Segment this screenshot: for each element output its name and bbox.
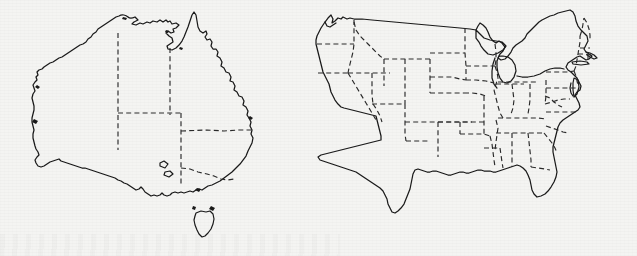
- usa-border-oh-pa-wv: [545, 80, 546, 104]
- usa-border-in-oh: [528, 84, 530, 114]
- usa-border-ga-sc: [544, 133, 557, 153]
- australia-svg: [0, 0, 300, 256]
- usa-border-id-mt-wy: [354, 22, 384, 59]
- usa-lake-superior-shore: [476, 30, 506, 55]
- usa-border-wa-or-id: [348, 20, 354, 73]
- usa-border-nv-ca-south: [373, 104, 382, 122]
- australia-islet-southeast: [195, 188, 201, 192]
- usa-border-tx-la: [490, 136, 495, 167]
- australia-coastline: [32, 12, 253, 196]
- usa-border-ga-fl: [531, 167, 550, 170]
- australia-bass-strait-islet-a: [192, 206, 196, 210]
- usa-border-ky-tn: [498, 118, 546, 119]
- usa-border-il-in: [511, 84, 514, 114]
- australia-islet-west: [35, 85, 40, 89]
- usa-border-ok-tx: [460, 134, 490, 136]
- australia-border-qld-nsw: [181, 130, 251, 131]
- usa-border-nv-ut: [372, 73, 373, 104]
- australia-tasmania: [194, 211, 214, 237]
- australia-island-small-south: [160, 161, 168, 168]
- usa-border-vt-nh: [580, 18, 584, 36]
- usa-border-al-ga: [528, 133, 531, 167]
- usa-border-mo-il-ky: [494, 90, 503, 118]
- map-australia: Australia: [0, 0, 300, 256]
- usa-border-ne-ks: [464, 93, 486, 96]
- australia-border-nsw-vic: [181, 168, 234, 180]
- australia-bass-strait-islet-b: [209, 206, 215, 211]
- usa-svg: [300, 0, 637, 256]
- scanned-page: Australia: [0, 0, 637, 256]
- australia-islet-gulf: [179, 47, 183, 50]
- usa-border-sd-ne: [430, 77, 466, 80]
- usa-border-dakotas-mn: [465, 28, 466, 80]
- australia-islet-nw: [122, 17, 127, 20]
- usa-puget-sound-notch: [325, 22, 336, 27]
- usa-long-island: [572, 61, 589, 65]
- usa-border-va-wv-md: [545, 99, 570, 104]
- usa-michigan-lower-peninsula: [497, 56, 516, 83]
- australia-kangaroo-island: [164, 171, 173, 177]
- map-united-states: United States: [300, 0, 637, 256]
- usa-border-mo-ia: [466, 80, 494, 83]
- usa-border-mn-wi: [495, 44, 496, 66]
- usa-border-wv-va-ridge: [545, 96, 562, 107]
- usa-border-ar-ms: [495, 120, 498, 150]
- usa-border-la-ms: [500, 148, 503, 168]
